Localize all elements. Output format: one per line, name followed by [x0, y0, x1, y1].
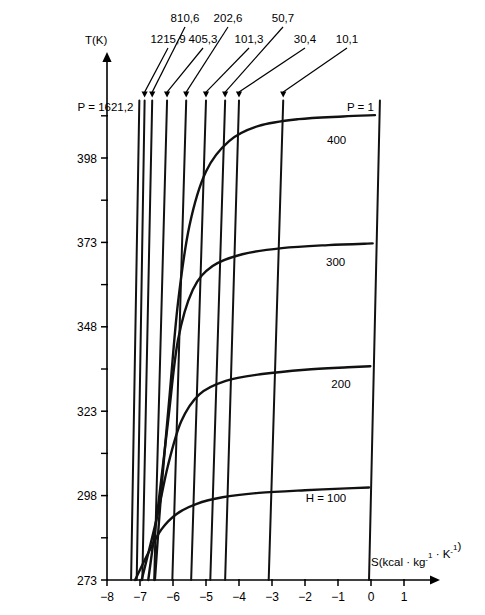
isobar-pressure-label: 1215,9: [150, 33, 185, 45]
isobar-pressure-label: 10,1: [336, 33, 358, 45]
y-tick-label: 323: [77, 405, 97, 419]
y-tick-label: 373: [77, 236, 97, 250]
pressure-pointer-arrowhead: [236, 91, 242, 97]
pressure-pointer-arrowhead: [142, 91, 148, 97]
pressure-pointer-line: [206, 48, 249, 92]
pressure-pointer-line: [239, 48, 305, 92]
y-tick-label: 273: [77, 574, 97, 588]
isobar-pressure-label: 50,7: [272, 12, 294, 24]
x-tick-label: −8: [100, 590, 114, 604]
x-tick-label: −3: [265, 590, 279, 604]
isobar-pressure-label: 101,3: [235, 33, 264, 45]
pressure-pointer-arrowhead: [203, 91, 209, 97]
labels-group: 273298323348373398−8−7−6−5−4−3−2−101T(K)…: [77, 12, 462, 604]
x-tick-label: −5: [199, 590, 213, 604]
isenthalp-label: 200: [331, 378, 350, 390]
y-axis-title: T(K): [85, 34, 108, 46]
y-tick-label: 298: [77, 489, 97, 503]
isenthalp-label: 300: [326, 256, 345, 268]
s-axis-arrowhead: [430, 575, 440, 584]
isobar-pressure-label: P = 1: [347, 101, 374, 113]
isenthalp-curve: [148, 243, 372, 580]
pressure-pointer-line: [145, 48, 168, 92]
chart-canvas: 273298323348373398−8−7−6−5−4−3−2−101T(K)…: [0, 0, 485, 615]
pressure-pointer-arrowhead: [149, 91, 155, 97]
isobar-line: [269, 101, 284, 580]
isobar-lines-group: [131, 101, 380, 580]
isobar-pressure-label: P = 1621,2: [78, 101, 134, 113]
y-tick-label: 348: [77, 320, 97, 334]
x-tick-label: −2: [298, 590, 312, 604]
isobar-pressure-label: 202,6: [214, 12, 243, 24]
pressure-pointer-arrowhead: [164, 91, 170, 97]
isenthalp-curves-group: [135, 115, 375, 580]
pressure-pointer-arrowhead: [222, 91, 228, 97]
x-tick-label: −7: [133, 590, 147, 604]
isobar-line: [210, 101, 225, 580]
x-axis-title: S(kcal · kg-1 · K-1): [371, 540, 461, 568]
x-tick-label: −4: [232, 590, 246, 604]
pressure-pointer-line: [283, 48, 347, 92]
x-tick-label: 0: [368, 590, 375, 604]
isobar-line: [191, 101, 206, 580]
pressure-pointer-arrowhead: [183, 91, 189, 97]
isobar-line: [225, 101, 239, 580]
y-tick-label: 398: [77, 152, 97, 166]
x-tick-label: −1: [331, 590, 345, 604]
t-axis-arrowhead: [102, 52, 111, 62]
isobar-pressure-label: 810,6: [171, 12, 200, 24]
pressure-pointer-line: [167, 48, 203, 92]
x-tick-label: 1: [401, 590, 408, 604]
isenthalp-curve: [155, 115, 375, 580]
isobar-pressure-label: 405,3: [189, 33, 218, 45]
pressure-pointer-arrowhead: [280, 91, 286, 97]
x-tick-label: −6: [166, 590, 180, 604]
isenthalp-label: 400: [327, 134, 346, 146]
isobar-line: [369, 101, 380, 580]
ts-diagram-figure: 273298323348373398−8−7−6−5−4−3−2−101T(K)…: [0, 0, 485, 615]
isobar-pressure-label: 30,4: [294, 33, 317, 45]
isenthalp-label: H = 100: [306, 492, 347, 504]
